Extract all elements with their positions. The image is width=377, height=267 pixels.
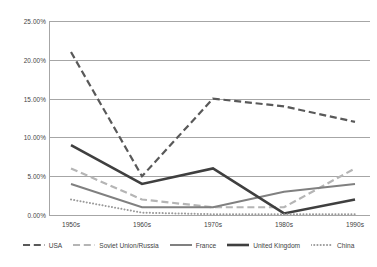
x-tick-label: 1950s [38,221,104,228]
legend-label: China [337,242,354,249]
legend-label: Soviet Union/Russia [99,242,158,249]
y-tick-label: 25.00% [0,18,46,25]
legend-label: USA [49,242,63,249]
legend-swatch-icon [73,241,95,249]
legend-swatch-icon [170,241,192,249]
legend-item[interactable]: USA [23,241,63,249]
legend-swatch-icon [23,241,45,249]
y-tick-label: 5.00% [0,173,46,180]
y-tick-label: 15.00% [0,95,46,102]
series-lines [49,21,370,215]
y-tick-label: 10.00% [0,134,46,141]
legend-label: France [196,242,217,249]
y-tick-label: 20.00% [0,56,46,63]
gridline [49,215,370,216]
legend-swatch-icon [227,241,249,249]
line-chart: 0.00%5.00%10.00%15.00%20.00%25.00% 1950s… [0,0,377,267]
series-line [71,145,355,213]
legend-item[interactable]: China [311,241,354,249]
legend-item[interactable]: France [170,241,217,249]
x-tick-label: 1970s [180,221,246,228]
chart-legend: USASoviet Union/RussiaFranceUnited Kingd… [0,241,377,249]
legend-item[interactable]: Soviet Union/Russia [73,241,158,249]
y-tick-label: 0.00% [0,212,46,219]
x-tick-label: 1960s [109,221,175,228]
legend-label: United Kingdom [253,242,300,249]
x-tick-label: 1980s [251,221,317,228]
plot-area: 0.00%5.00%10.00%15.00%20.00%25.00% [49,21,370,215]
legend-item[interactable]: United Kingdom [227,241,300,249]
series-line [71,52,355,176]
legend-swatch-icon [311,241,333,249]
x-tick-label: 1990s [322,221,377,228]
